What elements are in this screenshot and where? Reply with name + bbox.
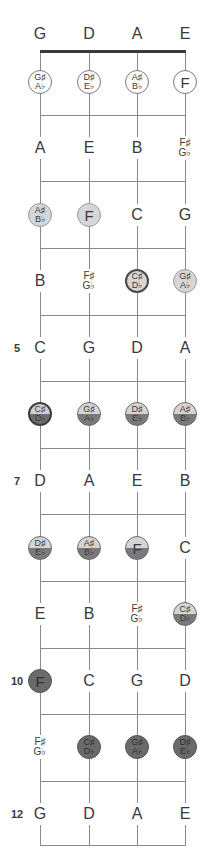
note-circle-light: F	[77, 203, 101, 227]
note-circle-outline: D♯E♭	[77, 70, 101, 94]
note-circle-split: D♯E♭	[28, 536, 52, 560]
fret-line	[40, 581, 186, 582]
note-circle-split-ring: C♯D♭	[28, 402, 52, 426]
fret-line	[40, 315, 186, 316]
note-circle-dark: C♯D♭	[77, 735, 101, 759]
note-label: B	[82, 603, 97, 625]
note-label: F♯G♭	[33, 735, 48, 759]
note-name: F	[132, 541, 141, 556]
fret-line	[40, 115, 186, 116]
note-label: A	[178, 337, 193, 359]
fret-line	[40, 248, 186, 249]
note-flat-name: E♭	[84, 82, 94, 91]
fret-line	[40, 448, 186, 449]
note-circle-dark: D♯E♭	[173, 735, 197, 759]
note-flat-name: G♭	[131, 614, 144, 624]
note-label: C	[81, 670, 97, 692]
note-flat-name: A♭	[180, 281, 190, 290]
note-flat-name: E♭	[132, 414, 142, 423]
note-name: F	[180, 75, 189, 90]
note-flat-name: A♭	[84, 414, 94, 423]
note-label: B	[130, 137, 145, 159]
note-label: D	[32, 470, 48, 492]
note-label: F♯G♭	[130, 602, 145, 626]
note-label: E	[178, 803, 193, 825]
fret-line	[40, 181, 186, 182]
fret-number: 7	[14, 475, 20, 487]
fret-line	[40, 781, 186, 782]
note-flat-name: E♭	[35, 548, 45, 557]
open-string-label: D	[83, 25, 95, 43]
open-string-label: E	[180, 25, 191, 43]
note-label: E	[82, 137, 97, 159]
note-label: A	[130, 803, 145, 825]
note-circle-outline: G♯A♭	[28, 70, 52, 94]
note-circle-split: D♯E♭	[125, 402, 149, 426]
note-circle-split: A♯B♭	[173, 402, 197, 426]
nut	[40, 50, 186, 53]
fret-number: 10	[11, 675, 23, 687]
note-circle-split: F	[125, 536, 149, 560]
note-circle-split: A♯B♭	[77, 536, 101, 560]
note-label: B	[178, 470, 193, 492]
note-flat-name: E♭	[180, 747, 190, 756]
fret-number: 12	[11, 808, 23, 820]
fret-line	[40, 845, 186, 846]
note-label: D	[81, 803, 97, 825]
note-flat-name: D♭	[84, 747, 95, 756]
note-flat-name: D♭	[35, 414, 46, 423]
note-label: G	[81, 337, 97, 359]
note-flat-name: B♭	[35, 215, 45, 224]
fret-line	[40, 381, 186, 382]
note-flat-name: D♭	[132, 281, 143, 290]
note-flat-name: A♭	[132, 747, 142, 756]
open-string-label: A	[132, 25, 143, 43]
open-string-label: G	[34, 25, 46, 43]
note-label: C	[129, 204, 145, 226]
note-circle-ring: C♯D♭	[125, 269, 149, 293]
fret-line	[40, 514, 186, 515]
note-label: G	[177, 204, 193, 226]
note-label: F♯G♭	[178, 136, 193, 160]
note-label: D	[129, 337, 145, 359]
fret-line	[40, 714, 186, 715]
note-flat-name: B♭	[132, 82, 142, 91]
note-label: A	[33, 137, 48, 159]
note-flat-name: B♭	[84, 548, 94, 557]
note-circle-light: G♯A♭	[173, 269, 197, 293]
fret-line	[40, 648, 186, 649]
note-flat-name: A♭	[35, 82, 45, 91]
note-name: F	[35, 674, 44, 689]
note-label: E	[33, 603, 48, 625]
note-label: A	[82, 470, 97, 492]
note-name: F	[84, 208, 93, 223]
note-circle-dark: F	[28, 669, 52, 693]
note-circle-outline: A♯B♭	[125, 70, 149, 94]
note-flat-name: B♭	[180, 414, 190, 423]
note-circle-split: C♯D♭	[173, 602, 197, 626]
note-circle-outline: F	[173, 70, 197, 94]
note-flat-name: G♭	[83, 281, 96, 291]
note-label: G	[129, 670, 145, 692]
note-circle-light: A♯B♭	[28, 203, 52, 227]
note-circle-dark: G♯A♭	[125, 735, 149, 759]
note-label: C	[177, 537, 193, 559]
note-label: F♯G♭	[82, 269, 97, 293]
note-label: G	[32, 803, 48, 825]
note-flat-name: G♭	[179, 148, 192, 158]
note-flat-name: G♭	[34, 747, 47, 757]
note-label: E	[130, 470, 145, 492]
note-circle-split: G♯A♭	[77, 402, 101, 426]
note-label: B	[33, 270, 48, 292]
note-label: D	[177, 670, 193, 692]
fret-number: 5	[14, 342, 20, 354]
note-label: C	[32, 337, 48, 359]
note-flat-name: D♭	[180, 614, 191, 623]
